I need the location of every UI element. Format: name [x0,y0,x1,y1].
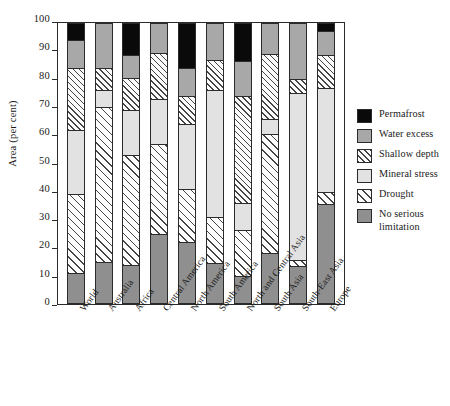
bar-segment-mineral[interactable] [206,90,224,216]
bar-segment-shallow[interactable] [122,78,140,110]
stacked-bar-chart-figure: Area (per cent) 0102030405060708090100 W… [0,0,450,406]
bar-segment-water[interactable] [234,61,252,96]
y-axis-tick-label: 100 [34,14,50,25]
legend-item-label: Water excess [379,128,433,141]
bar-segment-drought[interactable] [317,192,335,205]
y-axis-title: Area (per cent) [7,54,18,214]
y-axis: Area (per cent) 0102030405060708090100 [0,0,57,305]
bar-segment-shallow[interactable] [178,96,196,124]
y-axis-tick-label: 80 [39,71,50,82]
x-axis-labels: WorldAustraliaAfricaCentral AmericaNorth… [57,307,345,403]
bar-segment-drought[interactable] [122,155,140,265]
bar-segment-shallow[interactable] [317,55,335,87]
bar-segment-permafrost[interactable] [178,23,196,68]
y-axis-tick-label: 30 [39,212,50,223]
bar-segment-shallow[interactable] [206,60,224,91]
y-axis-tick-label: 10 [39,269,50,280]
y-axis-tick-label: 50 [39,156,50,167]
bar-segment-mineral[interactable] [150,99,168,144]
bar-segment-water[interactable] [67,40,85,68]
bar-segment-water[interactable] [317,31,335,55]
y-axis-tick-label: 70 [39,99,50,110]
bar-segment-mineral[interactable] [317,88,335,192]
legend-item-label: Permafrost [379,108,425,121]
bar-segment-water[interactable] [150,23,168,53]
bar-segment-water[interactable] [206,23,224,60]
bar-segment-shallow[interactable] [95,68,113,90]
bar-column[interactable] [289,23,307,304]
bar-segment-drought[interactable] [178,189,196,242]
legend-item-label: Shallow depth [379,148,439,161]
legend-swatch-drought [357,189,372,203]
bar-segment-water[interactable] [95,23,113,68]
legend-swatch-noserious [357,209,372,223]
legend-item[interactable]: Mineral stress [357,168,449,187]
bar-segment-drought[interactable] [150,144,168,234]
y-axis-tick-label: 40 [39,184,50,195]
bar-segment-shallow[interactable] [289,79,307,93]
bar-segment-water[interactable] [122,55,140,77]
legend-swatch-permafrost [357,109,372,123]
bar-segment-shallow[interactable] [150,53,168,99]
y-axis-tick-label: 90 [39,42,50,53]
y-axis-tick-label: 0 [45,297,50,308]
legend-swatch-water [357,129,372,143]
bar-segment-shallow[interactable] [234,96,252,203]
legend-item[interactable]: Drought [357,188,449,207]
bar-segment-shallow[interactable] [67,68,85,130]
bar-column[interactable] [67,23,85,304]
bar-segment-drought[interactable] [261,134,279,253]
legend-swatch-mineral [357,169,372,183]
legend-swatch-shallow [357,149,372,163]
bar-segment-mineral[interactable] [67,130,85,195]
bar-segment-mineral[interactable] [234,203,252,230]
legend-item[interactable]: Permafrost [357,108,449,127]
y-axis-tick-mark [52,305,57,306]
bar-segment-mineral[interactable] [178,124,196,189]
legend-item[interactable]: Water excess [357,128,449,147]
legend-item[interactable]: No serious limitation [357,208,449,236]
bar-segment-water[interactable] [289,23,307,79]
bar-segment-permafrost[interactable] [122,23,140,55]
y-axis-tick-label: 60 [39,127,50,138]
bar-segment-mineral[interactable] [261,119,279,134]
legend-item[interactable]: Shallow depth [357,148,449,167]
bar-segment-permafrost[interactable] [317,23,335,31]
legend-item-label: Drought [379,188,414,201]
bar-column[interactable] [150,23,168,304]
bar-segment-drought[interactable] [206,217,224,263]
bar-column[interactable] [122,23,140,304]
legend-item-label: No serious limitation [379,208,449,233]
bar-column[interactable] [95,23,113,304]
bar-segment-permafrost[interactable] [67,23,85,40]
y-axis-tick-label: 20 [39,240,50,251]
bar-segment-mineral[interactable] [95,90,113,107]
chart-legend: PermafrostWater excessShallow depthMiner… [357,108,449,237]
bar-segment-drought[interactable] [95,107,113,262]
bar-segment-mineral[interactable] [122,110,140,155]
legend-item-label: Mineral stress [379,168,438,181]
bar-segment-drought[interactable] [67,194,85,273]
bar-segment-shallow[interactable] [261,54,279,119]
bar-segment-permafrost[interactable] [234,23,252,61]
bar-segment-water[interactable] [178,68,196,96]
bar-segment-water[interactable] [261,23,279,54]
